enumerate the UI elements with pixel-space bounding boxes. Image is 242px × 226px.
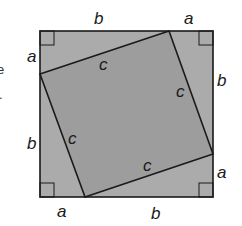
label-inner-left-c: c	[68, 129, 77, 148]
label-bottom-b: b	[151, 204, 160, 223]
label-right-b: b	[217, 71, 226, 90]
label-inner-top-c: c	[99, 55, 108, 74]
label-right-a: a	[217, 163, 226, 182]
label-top-b: b	[94, 9, 103, 28]
cropped-text-fragment: e	[0, 62, 4, 77]
label-bottom-a: a	[57, 202, 66, 221]
cropped-text-fragment: .	[0, 87, 3, 102]
label-inner-bottom-c: c	[143, 156, 152, 175]
pythagorean-diagram: b a b a a b a b c c c c e .	[0, 0, 242, 226]
label-inner-right-c: c	[176, 82, 185, 101]
label-left-b: b	[27, 134, 36, 153]
label-top-a: a	[184, 9, 193, 28]
label-left-a: a	[27, 47, 36, 66]
